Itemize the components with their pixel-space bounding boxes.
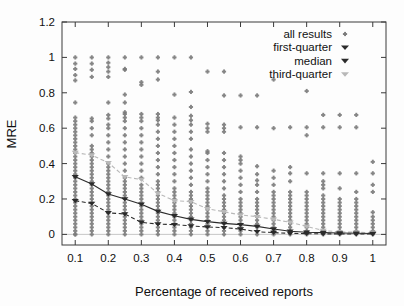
chart-legend: all resultsfirst-quartermedianthird-quar… (269, 28, 349, 80)
x-tick-label: 0.1 (67, 252, 83, 264)
x-tick-label: 0.4 (166, 252, 183, 264)
y-tick-label: 0.4 (39, 158, 56, 170)
legend-label-first-quarter: first-quarter (273, 41, 332, 53)
x-tick-label: 0.7 (266, 252, 282, 264)
legend-label-all-results: all results (283, 28, 332, 40)
y-tick-label: 0 (49, 228, 55, 240)
y-tick-label: 0.2 (39, 193, 55, 205)
legend-label-median: median (294, 55, 332, 67)
y-tick-label: 0.6 (39, 122, 55, 134)
y-tick-label: 1 (49, 51, 55, 63)
chart-figure: 0.10.20.30.40.50.60.70.80.91 00.20.40.60… (0, 0, 404, 306)
x-tick-label: 0.3 (133, 252, 149, 264)
legend-marker-dot (343, 32, 347, 36)
legend-marker-triangle-down (341, 59, 349, 64)
x-tick-label: 0.6 (233, 252, 249, 264)
legend-label-third-quarter: third-quarter (269, 68, 332, 80)
x-tick-label: 0.9 (332, 252, 348, 264)
x-tick-label: 0.5 (199, 252, 215, 264)
y-tick-label: 0.8 (39, 87, 55, 99)
x-axis-title: Percentage of received reports (135, 284, 313, 299)
all-results-scatter-layer (73, 55, 375, 236)
x-tick-label: 1 (370, 252, 376, 264)
x-tick-label: 0.8 (299, 252, 315, 264)
x-tick-label: 0.2 (100, 252, 116, 264)
scatter-plot: 0.10.20.30.40.50.60.70.80.91 00.20.40.60… (0, 0, 404, 306)
legend-marker-triangle-down (341, 45, 349, 50)
y-tick-label: 1.2 (39, 16, 55, 28)
legend-marker-triangle-down (341, 72, 349, 77)
y-axis-title: MRE (4, 119, 19, 148)
